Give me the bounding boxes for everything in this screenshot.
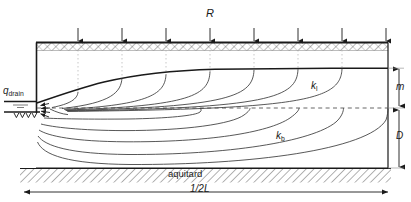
streamlines-top-layer (52, 69, 342, 112)
half-drain-spacing-label: 1/2L (190, 184, 209, 194)
bottom-layer-conductivity-subscript: b (281, 135, 285, 142)
bottom-layer-conductivity-label: kb (276, 131, 285, 141)
top-layer-thickness-label: m (396, 82, 404, 92)
streamlines-bottom-layer (38, 108, 389, 164)
drainage-cross-section-diagram: R qdrain kl kb m D aquitard 1/2L (0, 0, 411, 202)
drain-inflow-arrows (41, 104, 51, 118)
top-layer-conductivity-label: kl (311, 81, 318, 91)
recharge-arrows (78, 28, 386, 41)
ground-surface-band (36, 43, 388, 51)
aquitard-label: aquitard (168, 169, 202, 179)
drain-assembly (4, 102, 50, 118)
diagram-canvas (0, 0, 411, 202)
bottom-layer-thickness-label: D (396, 131, 403, 141)
top-layer-conductivity-subscript: l (316, 85, 318, 92)
recharge-label: R (206, 8, 214, 19)
aquitard-layer (20, 169, 391, 183)
drain-discharge-symbol: q (3, 85, 9, 96)
equipotential-guides (78, 50, 342, 92)
drain-perforation-marks (14, 113, 37, 118)
drain-discharge-label: qdrain (3, 86, 24, 96)
drain-discharge-subscript: drain (9, 90, 24, 97)
